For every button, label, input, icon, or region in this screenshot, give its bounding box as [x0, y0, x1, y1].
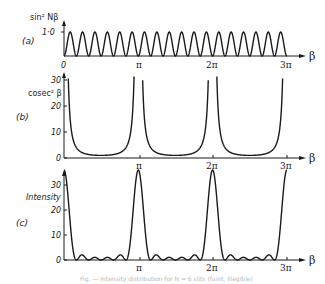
y-tick-label-b-0: 0: [56, 154, 61, 163]
x-tick-label-c-2pi: 2π: [206, 263, 218, 273]
curve-intensity: [64, 170, 287, 260]
x-tick-label-b-2pi: 2π: [206, 161, 218, 171]
y-tick-label-c-0: 0: [56, 256, 61, 265]
x-tick-label-c-3pi: 3π: [280, 263, 292, 273]
panel-label-c: (c): [16, 218, 28, 228]
panel-label-b: (b): [16, 112, 29, 122]
curve-sin2-n-beta: [64, 32, 287, 56]
x-axis-arrow-icon: [299, 156, 306, 160]
x-axis-label-c: β: [309, 254, 315, 267]
panel-c: (c) Intensity β 0 10 20 30 π 2π 3π: [16, 170, 315, 273]
y-tick-label-c-10: 10: [51, 231, 61, 240]
y-tick-label-c-20: 20: [51, 206, 61, 215]
x-axis-label-a: β: [309, 50, 315, 63]
x-axis-arrow-icon: [299, 54, 306, 58]
x-axis-label-b: β: [309, 152, 315, 165]
curve-cosec2-beta: [68, 76, 282, 155]
x-tick-label-b-3pi: 3π: [280, 161, 292, 171]
x-tick-label-a-pi: π: [136, 60, 142, 70]
diffraction-figure: (a) sin² Nβ β 1·0 0 π 2π 3π (b) cosec² β…: [0, 0, 325, 284]
x-tick-label-a-2pi: 2π: [206, 60, 218, 70]
y-tick-label-c-30: 30: [51, 181, 61, 190]
panel-a: (a) sin² Nβ β 1·0 0 π 2π 3π: [22, 13, 315, 70]
y-axis-label-a: sin² Nβ: [30, 13, 58, 22]
y-tick-label-b-20: 20: [51, 102, 61, 111]
x-axis-arrow-icon: [299, 258, 306, 262]
x-tick-label-a-0: 0: [61, 61, 66, 70]
y-tick-label-a-1: 1·0: [42, 28, 55, 37]
y-tick-label-b-30: 30: [51, 76, 61, 85]
y-axis-label-b: cosec² β: [28, 89, 62, 98]
y-tick-label-b-10: 10: [51, 128, 61, 137]
x-tick-label-a-3pi: 3π: [280, 60, 292, 70]
panel-b: (b) cosec² β β 0 10 20 30 π 2π 3π: [16, 72, 315, 171]
panel-label-a: (a): [22, 36, 35, 46]
y-axis-arrow-icon: [62, 20, 66, 26]
x-tick-label-c-pi: π: [136, 263, 142, 273]
y-axis-arrow-icon: [62, 72, 66, 78]
figure-caption: Fig. — Intensity distribution for N = 6 …: [80, 275, 253, 283]
x-tick-label-b-pi: π: [136, 161, 142, 171]
y-axis-label-c: Intensity: [26, 193, 61, 202]
